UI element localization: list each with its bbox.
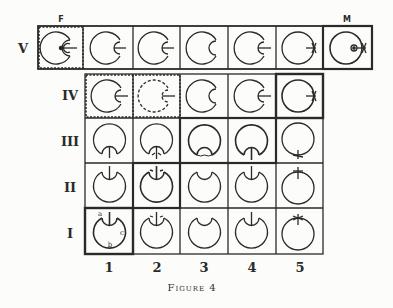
col-label-2: 2 (152, 260, 161, 275)
m-glyph (330, 32, 366, 64)
row-label-iii: III (61, 134, 79, 149)
iii3-glyph (189, 125, 221, 156)
v3-glyph (186, 32, 216, 64)
figure-caption: Figure 4 (167, 282, 216, 293)
v5-glyph (282, 32, 316, 64)
iv2-glyph (138, 80, 175, 112)
v1-glyph (90, 32, 126, 64)
ii2-glyph (141, 166, 173, 202)
label-f: F (58, 15, 63, 24)
ii5-glyph (282, 167, 314, 204)
iii1-glyph (93, 124, 125, 158)
iii2-glyph (141, 124, 173, 159)
i2-glyph (141, 212, 173, 248)
row-label-ii: II (64, 180, 76, 195)
iv5-glyph (282, 80, 316, 112)
annotation-c: c (120, 229, 124, 237)
col-label-1: 1 (104, 260, 113, 275)
iii4-glyph (236, 125, 268, 160)
row-label-i: I (67, 226, 73, 241)
iii5-glyph (282, 123, 314, 159)
ii4-glyph (236, 166, 268, 202)
row-label-v: V (18, 41, 28, 56)
row-label-iv: IV (62, 88, 78, 103)
v4-glyph (234, 32, 271, 64)
label-m: M (343, 15, 351, 24)
col-label-3: 3 (199, 260, 208, 275)
annotation-a: a (98, 210, 102, 218)
col-label-5: 5 (295, 260, 304, 275)
f-cell-glyph (40, 32, 77, 64)
v2-glyph (138, 32, 174, 64)
annotation-b: b (108, 241, 112, 249)
ii1-glyph (93, 166, 125, 202)
iv4-glyph (234, 80, 271, 112)
i3-glyph (189, 218, 221, 248)
ii3-glyph (189, 172, 221, 202)
iv3-glyph (186, 80, 216, 112)
i4-glyph (236, 212, 268, 248)
iv1-glyph (91, 80, 128, 112)
col-label-4: 4 (247, 260, 256, 275)
i5-glyph (282, 214, 314, 250)
figure-diagram (0, 0, 393, 308)
